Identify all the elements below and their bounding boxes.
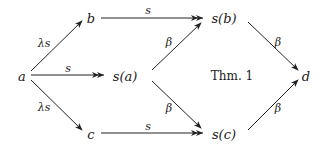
node-a: a (18, 70, 26, 83)
node-d: d (302, 70, 310, 83)
arrow-sc-to-d (248, 80, 298, 130)
node-sa: s(a) (113, 70, 138, 83)
node-c: c (87, 128, 94, 141)
label-sc-d: β (275, 103, 281, 114)
node-sb: s(b) (211, 12, 236, 25)
label-a-b: λs (38, 38, 51, 49)
label-sb-d: β (275, 37, 281, 48)
arrow-sa-to-sb (152, 23, 201, 70)
label-sa-sc: β (166, 103, 172, 114)
label-sa-sb: β (166, 37, 172, 48)
node-b: b (87, 12, 95, 25)
commutative-diagram: a b c s(a) s(b) s(c) d Thm. 1 λs s λs s … (0, 0, 328, 150)
node-sc: s(c) (212, 128, 236, 141)
label-c-sc: s (145, 121, 151, 132)
diagram-arrows (0, 0, 328, 150)
label-a-sa: s (65, 63, 71, 74)
label-b-sb: s (145, 5, 151, 16)
label-a-c: λs (38, 102, 51, 113)
arrow-sb-to-d (248, 22, 298, 70)
theorem-annotation: Thm. 1 (211, 70, 253, 82)
arrow-sa-to-sc (152, 81, 201, 128)
